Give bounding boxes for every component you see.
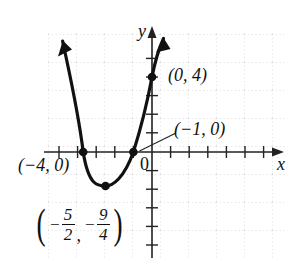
vertex-y-denominator: 4 bbox=[99, 226, 108, 243]
vertex-open-paren: ( bbox=[36, 208, 45, 242]
vertex-x-numerator: 5 bbox=[64, 206, 73, 223]
point-x-intercept-right bbox=[129, 148, 138, 157]
y-axis-arrowhead bbox=[148, 26, 157, 38]
point-vertex bbox=[101, 182, 110, 191]
origin-label: 0 bbox=[140, 155, 149, 173]
vertex-y-fraction: 9 4 bbox=[96, 206, 111, 244]
vertex-x-fraction: 5 2 bbox=[61, 206, 76, 244]
point-label-x-intercept-right: (−1, 0) bbox=[174, 120, 225, 138]
vertex-x-minus: − bbox=[48, 216, 61, 233]
point-x-intercept-left bbox=[79, 148, 88, 157]
point-label-y-intercept: (0, 4) bbox=[168, 66, 207, 84]
point-label-x-intercept-left: (−4, 0) bbox=[18, 156, 69, 174]
vertex-x-denominator: 2 bbox=[64, 226, 73, 243]
vertex-close-paren: ) bbox=[113, 208, 122, 242]
y-axis-label: y bbox=[138, 22, 146, 40]
vertex-y-minus: − bbox=[83, 216, 96, 233]
point-label-vertex: ( − 5 2 , − 9 4 ) bbox=[34, 206, 125, 244]
point-y-intercept bbox=[148, 73, 157, 82]
vertex-comma: , bbox=[76, 226, 84, 244]
vertex-y-numerator: 9 bbox=[99, 206, 108, 223]
x-axis-label: x bbox=[277, 155, 285, 173]
